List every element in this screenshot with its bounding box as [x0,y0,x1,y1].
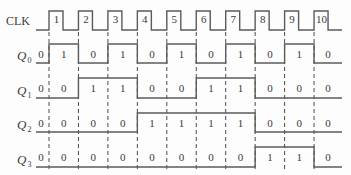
signal-value: 0 [238,151,244,163]
signal-label-subscript: 1 [27,91,31,100]
signal-value: 0 [61,117,67,129]
signal-label: Q0 [17,48,31,65]
signal-rows: Q001010101010Q100110011000Q200001111000Q… [17,44,342,169]
signal-value: 0 [61,82,67,94]
clock-pulse-number: 8 [260,13,266,25]
signal-value: 0 [267,48,273,60]
clock-waveform [36,11,342,30]
signal-value: 0 [90,117,96,129]
signal-value: 0 [90,48,96,60]
signal-value: 1 [90,82,96,94]
signal-value: 0 [38,82,44,94]
clock-pulse-number: 6 [201,13,207,25]
signal-label-subscript: 0 [27,56,31,65]
clock-row: CLK 12345678910 [6,11,342,30]
clock-pulse-number: 9 [289,13,295,25]
clock-label: CLK [6,14,30,28]
signal-value: 1 [208,82,214,94]
signal-value: 0 [325,117,331,129]
signal-label-name: Q [17,117,27,132]
signal-label-name: Q [17,152,27,167]
signal-label-subscript: 3 [27,160,31,169]
signal-row-q3: Q300000000110 [17,147,342,169]
signal-row-q2: Q200001111000 [17,113,342,134]
clock-pulse-number: 5 [172,13,178,25]
signal-value: 1 [238,117,244,129]
signal-value: 0 [179,82,185,94]
signal-label: Q1 [17,83,31,100]
signal-value: 0 [149,82,155,94]
signal-label-name: Q [17,48,27,63]
signal-value: 0 [267,82,273,94]
signal-value: 0 [120,117,126,129]
signal-value: 0 [149,151,155,163]
signal-label: Q3 [17,152,31,169]
signal-value: 1 [120,48,126,60]
clock-pulse-number: 1 [54,13,60,25]
signal-row-q0: Q001010101010 [17,44,342,65]
signal-value: 0 [90,151,96,163]
signal-value: 1 [120,82,126,94]
signal-value: 1 [149,117,155,129]
clock-pulse-number: 7 [230,13,236,25]
signal-value: 1 [267,151,273,163]
signal-value: 0 [61,151,67,163]
signal-row-q1: Q100110011000 [17,78,342,100]
signal-value: 1 [179,48,185,60]
signal-value: 1 [238,48,244,60]
signal-value: 0 [149,48,155,60]
signal-value: 0 [297,82,303,94]
clock-pulse-number: 4 [142,13,148,25]
signal-value: 1 [297,151,303,163]
signal-value: 0 [179,151,185,163]
clock-pulse-number: 10 [316,13,328,25]
signal-value: 1 [238,82,244,94]
signal-value: 0 [120,151,126,163]
signal-value: 1 [297,48,303,60]
signal-value: 0 [208,151,214,163]
timing-diagram: CLK 12345678910 Q001010101010Q1001100110… [0,0,351,175]
signal-value: 0 [267,117,273,129]
signal-value: 0 [38,48,44,60]
signal-value: 0 [297,117,303,129]
clock-pulse-number: 3 [113,13,119,25]
signal-label-subscript: 2 [27,125,31,134]
signal-value: 1 [179,117,185,129]
signal-label-name: Q [17,83,27,98]
signal-label: Q2 [17,117,31,134]
signal-value: 0 [325,82,331,94]
signal-value: 1 [208,117,214,129]
clock-pulse-number: 2 [83,13,89,25]
signal-value: 1 [61,48,67,60]
signal-value: 0 [38,151,44,163]
signal-value: 0 [208,48,214,60]
signal-value: 0 [325,48,331,60]
signal-value: 0 [38,117,44,129]
signal-value: 0 [325,151,331,163]
